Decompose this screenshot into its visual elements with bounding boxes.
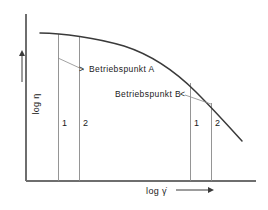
flow-curve [40, 33, 242, 141]
y-axis-title-text: log η [31, 93, 41, 114]
region-label-b1: 1 [194, 118, 199, 128]
x-axis-title: log γ̇ [146, 186, 167, 196]
callout-b-leader [185, 95, 211, 104]
callout-a-label: Betriebspunkt A [89, 64, 155, 74]
y-axis-title: log η [25, 81, 41, 127]
region-label-a1: 1 [62, 118, 67, 128]
callout-b-bracket: < [180, 89, 185, 99]
chart-figure: log η log γ̇ > Betriebspunkt A Betriebsp… [0, 0, 268, 210]
x-axis-arrow-head [208, 187, 214, 193]
callout-b-label: Betriebspunkt B [115, 89, 181, 99]
y-axis-arrow-head [19, 50, 25, 56]
x-axis-title-text: log γ̇ [146, 186, 167, 196]
callout-a-bracket: > [79, 64, 84, 74]
region-label-a2: 2 [83, 118, 88, 128]
region-label-b2: 2 [215, 118, 220, 128]
